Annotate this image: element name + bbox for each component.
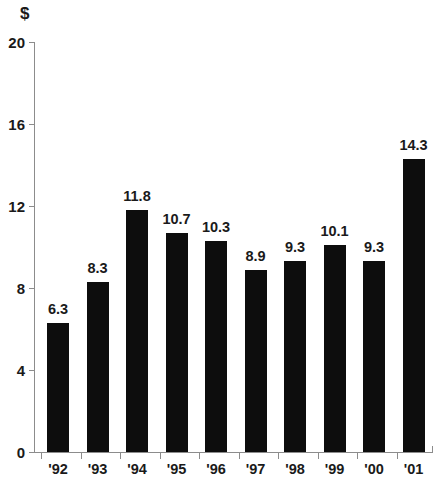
- bar: [47, 323, 69, 452]
- x-axis-tick: [239, 452, 240, 459]
- bar: [245, 270, 267, 452]
- bar: [166, 233, 188, 452]
- x-axis-line: [34, 452, 433, 453]
- y-axis-tick: [29, 452, 35, 453]
- y-axis-tick-label: 0: [0, 445, 25, 460]
- y-axis-tick-label: 8: [0, 281, 25, 296]
- x-axis-tick: [41, 452, 42, 459]
- y-axis-tick: [29, 206, 35, 207]
- x-axis-category-label: '01: [389, 461, 439, 477]
- bar: [324, 245, 346, 452]
- y-axis-tick-label: 20: [0, 35, 25, 50]
- y-axis-tick: [29, 42, 35, 43]
- x-axis-end-tick: [432, 446, 433, 453]
- y-axis-line: [34, 42, 35, 453]
- x-axis-tick: [199, 452, 200, 459]
- bar: [205, 241, 227, 452]
- y-axis-tick: [29, 124, 35, 125]
- bar-value-label: 10.3: [191, 220, 241, 235]
- bar-value-label: 10.1: [310, 224, 360, 239]
- x-axis-tick: [357, 452, 358, 459]
- bar: [87, 282, 109, 452]
- y-axis-tick-label: 12: [0, 199, 25, 214]
- x-axis-tick: [278, 452, 279, 459]
- y-axis-tick: [29, 370, 35, 371]
- y-axis-unit-label: $: [20, 4, 29, 24]
- y-axis-tick-label: 16: [0, 117, 25, 132]
- x-axis-tick: [120, 452, 121, 459]
- bar-value-label: 9.3: [349, 240, 399, 255]
- x-axis-tick: [81, 452, 82, 459]
- y-axis-tick: [29, 288, 35, 289]
- bar-value-label: 9.3: [270, 240, 320, 255]
- bar-value-label: 6.3: [33, 302, 83, 317]
- bar-value-label: 11.8: [112, 189, 162, 204]
- bar-value-label: 14.3: [389, 138, 439, 153]
- bar-chart: $ 0481216206.3'928.3'9311.8'9410.7'9510.…: [0, 0, 445, 494]
- x-axis-tick: [160, 452, 161, 459]
- bar: [363, 261, 385, 452]
- bar-value-label: 8.3: [73, 261, 123, 276]
- x-axis-tick: [318, 452, 319, 459]
- bar: [284, 261, 306, 452]
- bar: [126, 210, 148, 452]
- y-axis-tick-label: 4: [0, 363, 25, 378]
- x-axis-tick: [397, 452, 398, 459]
- bar: [403, 159, 425, 452]
